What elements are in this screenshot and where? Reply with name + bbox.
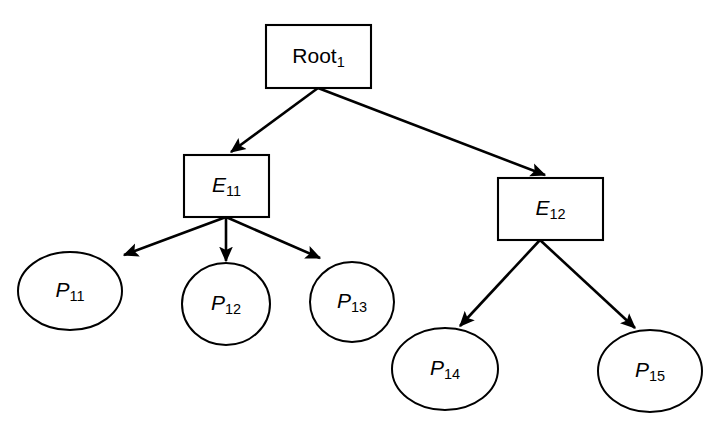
- node-e12: E12: [498, 178, 603, 240]
- node-p12-label-subscript: 12: [225, 301, 241, 317]
- edge-e11-to-p11: [124, 217, 226, 255]
- tree-diagram-canvas: Root1E11E12P11P12P13P14P15: [0, 0, 723, 437]
- edge-root1-to-e12: [318, 88, 545, 175]
- node-root1-label-base: Root: [292, 43, 337, 66]
- node-p14-label-base: P: [430, 356, 444, 379]
- node-p11-label-base: P: [55, 278, 69, 301]
- edge-e12-to-p14: [460, 240, 540, 326]
- node-p15-label-subscript: 15: [649, 368, 665, 384]
- node-root1-label-subscript: 1: [337, 53, 345, 69]
- tree-diagram-svg: Root1E11E12P11P12P13P14P15: [0, 0, 723, 437]
- node-p11-label-subscript: 11: [69, 288, 84, 304]
- node-p15-label-base: P: [635, 358, 649, 381]
- node-p14: P14: [392, 328, 498, 410]
- edge-e12-to-p15: [540, 240, 635, 328]
- nodes-layer: Root1E11E12P11P12P13P14P15: [18, 25, 702, 412]
- node-p15: P15: [598, 330, 702, 412]
- node-p12: P12: [182, 263, 270, 345]
- node-e11-label-base: E: [212, 173, 227, 196]
- node-p14-label-subscript: 14: [444, 366, 460, 382]
- node-p12-label-base: P: [211, 291, 225, 314]
- node-e12-label-base: E: [535, 196, 550, 219]
- edge-e11-to-p13: [226, 217, 320, 258]
- node-p13-label-subscript: 13: [351, 299, 367, 315]
- node-p13: P13: [310, 262, 394, 342]
- node-p13-label-base: P: [337, 289, 351, 312]
- node-root1: Root1: [266, 25, 371, 88]
- node-e11-label-subscript: 11: [226, 183, 241, 199]
- node-e12-label-subscript: 12: [549, 206, 565, 222]
- edge-root1-to-e11: [231, 88, 318, 152]
- node-e11: E11: [184, 155, 269, 217]
- node-p11: P11: [18, 252, 122, 330]
